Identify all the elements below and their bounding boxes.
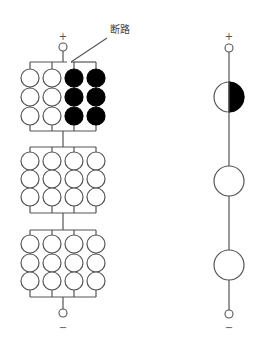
positive-terminal: [59, 43, 67, 51]
cell: [87, 152, 105, 170]
cell: [43, 152, 61, 170]
cell: [21, 69, 39, 87]
cell: [43, 170, 61, 188]
cell: [65, 235, 83, 253]
block-2: [21, 147, 105, 213]
open-circuit-label: 断路: [110, 23, 130, 35]
cell: [21, 254, 39, 272]
left-pack: +: [21, 23, 130, 333]
cell: [65, 152, 83, 170]
cell: [43, 107, 61, 125]
positive-sign: +: [59, 31, 67, 42]
cell: [87, 235, 105, 253]
right-pack: + −: [214, 31, 244, 333]
cell: [65, 272, 83, 290]
string-1: [21, 62, 39, 131]
negative-terminal: [59, 309, 67, 317]
failed-cell: [65, 69, 83, 87]
cell: [43, 188, 61, 206]
cell: [21, 272, 39, 290]
string-4-failed: [87, 62, 105, 131]
string-2: [43, 62, 61, 131]
cell: [43, 69, 61, 87]
cell: [214, 250, 244, 280]
string-3-failed: [65, 62, 83, 131]
failed-cell: [87, 88, 105, 106]
negative-terminal: [225, 310, 233, 318]
cell: [65, 254, 83, 272]
failed-cell: [87, 107, 105, 125]
cell: [87, 254, 105, 272]
cell: [21, 235, 39, 253]
half-failed-cell: [214, 82, 244, 112]
cell: [21, 107, 39, 125]
positive-sign: +: [225, 31, 233, 42]
positive-terminal: [225, 44, 233, 52]
cell: [87, 188, 105, 206]
cell: [21, 152, 39, 170]
failed-cell: [65, 107, 83, 125]
failed-half: [229, 82, 244, 112]
battery-diagram: +: [0, 0, 260, 347]
block-1: [21, 62, 105, 131]
cell: [21, 88, 39, 106]
cell: [214, 166, 244, 196]
cell: [21, 170, 39, 188]
cell: [43, 88, 61, 106]
cell: [21, 188, 39, 206]
failed-cell: [65, 88, 83, 106]
cell: [87, 272, 105, 290]
cell: [65, 188, 83, 206]
annotation-leader-line: [71, 38, 107, 62]
cell: [65, 170, 83, 188]
block-3: [21, 230, 105, 297]
cell: [87, 170, 105, 188]
cell: [43, 272, 61, 290]
cell: [43, 254, 61, 272]
cell: [43, 235, 61, 253]
failed-cell: [87, 69, 105, 87]
negative-sign: −: [59, 322, 67, 333]
negative-sign: −: [225, 322, 233, 333]
